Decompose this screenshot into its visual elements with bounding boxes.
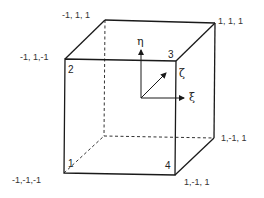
vertex-label-front-bottom-left: -1,-1,-1 bbox=[12, 175, 41, 185]
vertex-label-back-top-right: 1, 1, 1 bbox=[218, 16, 243, 26]
cube-diagram: η ξ ζ 1 2 3 4 -1, 1, 1 1, 1, 1 -1, 1,-1 … bbox=[0, 0, 264, 198]
eta-label: η bbox=[137, 35, 144, 48]
zeta-axis-arrow bbox=[141, 73, 166, 98]
edge-back-right-vertical bbox=[214, 23, 215, 138]
node-number-3: 3 bbox=[168, 49, 174, 60]
vertex-label-front-bottom-right: 1,-1, 1 bbox=[184, 177, 210, 187]
vertex-labels: -1, 1, 1 1, 1, 1 -1, 1,-1 1,-1, 1 -1,-1,… bbox=[12, 10, 247, 187]
vertex-label-front-top-left: -1, 1,-1 bbox=[20, 52, 49, 62]
xi-label: ξ bbox=[189, 91, 195, 104]
node-number-1: 1 bbox=[68, 158, 74, 169]
vertex-label-back-top-left: -1, 1, 1 bbox=[62, 10, 90, 20]
vertex-label-back-bottom-right: 1,-1, 1 bbox=[221, 133, 247, 143]
zeta-label: ζ bbox=[179, 67, 185, 80]
edge-top-left-depth bbox=[65, 20, 105, 59]
node-number-4: 4 bbox=[165, 160, 171, 171]
hidden-edge-back-bottom bbox=[104, 136, 214, 138]
node-number-2: 2 bbox=[68, 64, 74, 75]
node-numbers: 1 2 3 4 bbox=[68, 49, 174, 171]
local-axes: η ξ ζ bbox=[137, 35, 195, 104]
hidden-edge-back-left-vertical bbox=[104, 20, 105, 136]
edge-bottom-right-depth bbox=[175, 138, 214, 175]
edge-back-top bbox=[105, 20, 215, 23]
edge-top-right-depth bbox=[176, 23, 215, 61]
